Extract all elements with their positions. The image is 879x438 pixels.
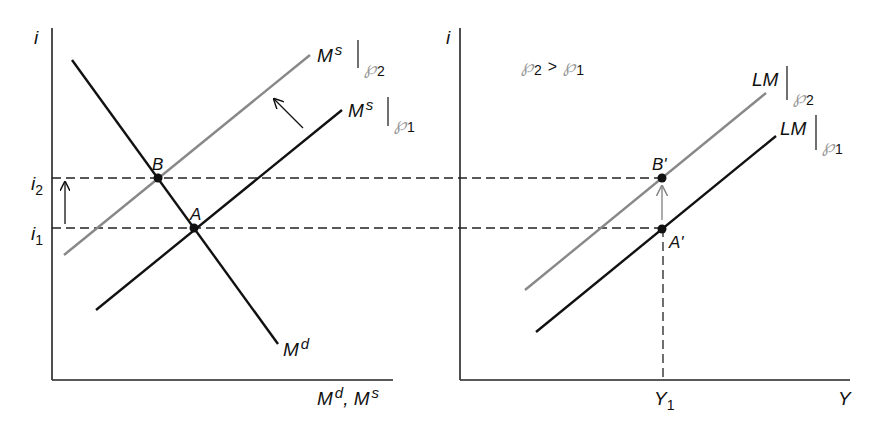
- ms-p1-curve: [96, 110, 342, 310]
- lm-p2-curve: [525, 93, 766, 290]
- left-x-label: Md, Ms: [317, 384, 380, 409]
- is-lm-price-diagram: i i2 i1 B A Ms ℘2 Ms ℘1 Md Md, Ms i ℘2>℘…: [0, 0, 879, 438]
- ms-p1-label: Ms: [348, 96, 374, 121]
- right-y-label: i: [446, 27, 451, 48]
- point-a-dot: [190, 224, 199, 233]
- ms-p2-curve: [64, 55, 310, 255]
- price-comparison-label: ℘2>℘1: [521, 55, 584, 78]
- point-b-prime-dot: [658, 174, 667, 183]
- right-panel-lm: i ℘2>℘1 B' A' LM ℘2 LM ℘1 Y1 Y: [446, 27, 852, 413]
- left-y-label: i: [34, 27, 39, 48]
- point-a-prime-label: A': [668, 233, 684, 252]
- i1-label: i1: [31, 223, 43, 248]
- point-a-prime-dot: [658, 225, 667, 234]
- point-a-label: A: [189, 205, 201, 224]
- ms-p1-price-label: ℘1: [394, 113, 415, 135]
- ms-p2-price-label: ℘2: [364, 57, 385, 79]
- y1-label: Y1: [654, 388, 675, 413]
- point-b-prime-label: B': [652, 155, 667, 174]
- md-label: Md: [283, 335, 310, 360]
- lm-p1-price-label: ℘1: [822, 135, 843, 157]
- lm-p1-label: LM: [780, 118, 807, 139]
- lm-p2-label: LM: [752, 69, 779, 90]
- md-curve: [72, 60, 278, 344]
- left-panel-money-market: i i2 i1 B A Ms ℘2 Ms ℘1 Md Md, Ms: [31, 27, 662, 409]
- point-b-dot: [154, 174, 163, 183]
- point-b-label: B: [152, 155, 163, 174]
- ms-p2-label: Ms: [317, 41, 343, 66]
- shift-arrow-icon: [274, 99, 303, 128]
- right-x-label: Y: [838, 388, 852, 409]
- i2-label: i2: [31, 173, 43, 198]
- lm-p2-price-label: ℘2: [793, 86, 814, 108]
